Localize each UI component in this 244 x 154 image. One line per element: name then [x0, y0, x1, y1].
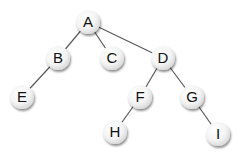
node-g: G: [180, 85, 204, 109]
node-e: E: [10, 85, 34, 109]
node-h: H: [103, 120, 127, 144]
node-label: H: [110, 123, 121, 140]
node-label: A: [83, 13, 93, 30]
tree-edges: [22, 22, 218, 134]
node-label: E: [17, 88, 27, 105]
node-label: C: [107, 49, 118, 66]
node-i: I: [206, 122, 230, 146]
node-label: G: [186, 88, 198, 105]
node-label: D: [158, 49, 169, 66]
node-label: B: [53, 49, 63, 66]
node-b: B: [46, 46, 70, 70]
tree-diagram: ABCDEFGHI: [0, 0, 244, 154]
node-d: D: [151, 46, 175, 70]
node-f: F: [128, 85, 152, 109]
tree-nodes: ABCDEFGHI: [10, 10, 230, 146]
edge-a-d: [88, 22, 163, 58]
node-a: A: [76, 10, 100, 34]
node-label: I: [216, 125, 220, 142]
node-label: F: [135, 88, 144, 105]
node-c: C: [100, 46, 124, 70]
